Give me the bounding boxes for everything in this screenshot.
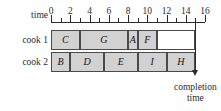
gantt-task-F: F: [138, 30, 157, 50]
axis-tick-minor: [157, 18, 158, 22]
gantt-chart-figure: time cook 1 cook 2 0246810121416 CGAF BD…: [0, 0, 221, 111]
axis-tick-minor: [61, 18, 62, 22]
gantt-task-B: B: [51, 52, 70, 72]
completion-time-arrow-icon: [192, 70, 198, 76]
time-axis-line: [51, 22, 205, 23]
axis-tick-label: 10: [139, 7, 155, 17]
axis-tick-label: 16: [197, 7, 213, 17]
gantt-task-E: E: [104, 52, 138, 72]
gantt-idle-block: [157, 30, 196, 50]
axis-label-time: time: [4, 11, 48, 21]
axis-tick-label: 4: [82, 7, 98, 17]
gantt-task-A: A: [128, 30, 138, 50]
axis-tick-minor: [80, 18, 81, 22]
gantt-task-G: G: [80, 30, 128, 50]
row-label-cook-1: cook 1: [2, 36, 48, 46]
gantt-task-D: D: [70, 52, 104, 72]
axis-tick-minor: [138, 18, 139, 22]
row-label-cook-2: cook 2: [2, 58, 48, 68]
gantt-task-I: I: [138, 52, 167, 72]
completion-time-annotation: completion time: [155, 82, 221, 104]
gantt-task-C: C: [51, 30, 80, 50]
axis-tick-label: 14: [178, 7, 194, 17]
axis-tick-label: 12: [159, 7, 175, 17]
axis-tick-minor: [118, 18, 119, 22]
axis-tick-label: 8: [120, 7, 136, 17]
axis-tick-label: 0: [43, 7, 59, 17]
completion-text-line-1: completion: [155, 82, 221, 93]
axis-tick-label: 6: [101, 7, 117, 17]
axis-tick-minor: [99, 18, 100, 22]
completion-time-line: [195, 22, 196, 74]
completion-text-line-2: time: [155, 93, 221, 104]
axis-tick-label: 2: [62, 7, 78, 17]
axis-tick-minor: [176, 18, 177, 22]
gantt-task-H: H: [167, 52, 196, 72]
